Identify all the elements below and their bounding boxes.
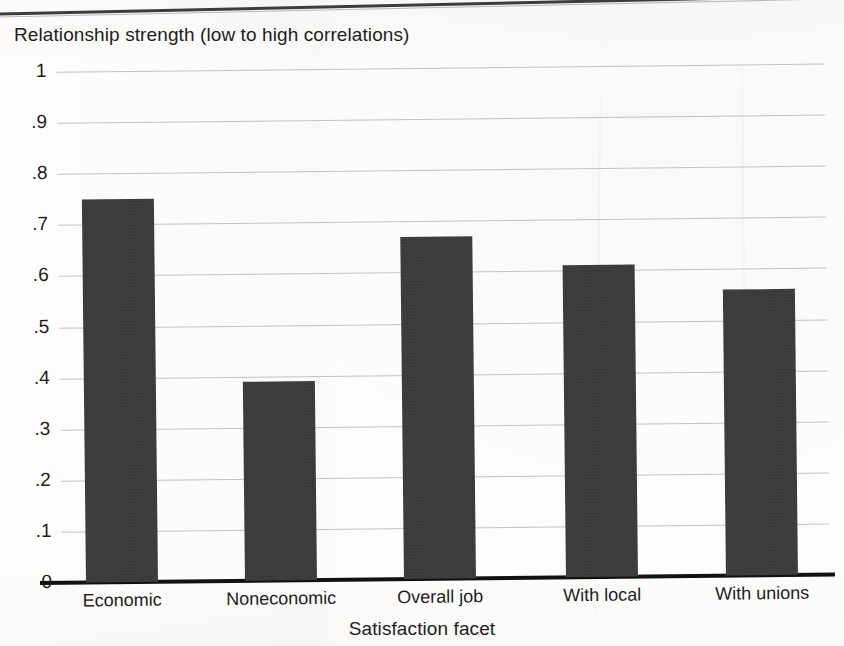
gridline xyxy=(58,217,826,226)
plot-skew-wrapper: 1.9.8.7.6.5.4.3.2.10 EconomicNoneconomic… xyxy=(0,0,844,646)
y-tick-label: .8 xyxy=(13,162,47,184)
bar xyxy=(82,198,158,582)
x-axis-title: Satisfaction facet xyxy=(0,618,844,640)
x-tick-label: With local xyxy=(563,584,641,606)
x-tick-label: Noneconomic xyxy=(226,588,336,610)
y-tick-label: .6 xyxy=(15,264,49,286)
y-tick-label: .3 xyxy=(16,418,50,440)
y-tick-label: .9 xyxy=(13,111,47,133)
y-tick-label: .2 xyxy=(17,469,51,491)
bar xyxy=(243,381,317,581)
gridline xyxy=(58,166,826,175)
bar xyxy=(563,265,638,577)
bar-chart-figure: Relationship strength (low to high corre… xyxy=(0,0,844,646)
y-tick-label: .5 xyxy=(15,315,49,337)
gridline xyxy=(56,63,824,72)
y-tick-label: .4 xyxy=(16,366,50,388)
y-tick-label: .7 xyxy=(14,213,48,235)
bar xyxy=(400,236,476,579)
y-tick-label: 1 xyxy=(12,60,46,82)
x-tick-label: Overall job xyxy=(397,586,483,608)
bar xyxy=(723,289,798,576)
y-axis-tick-labels: 1.9.8.7.6.5.4.3.2.10 xyxy=(6,0,53,646)
y-tick-label: .1 xyxy=(17,520,51,542)
x-tick-label: With unions xyxy=(715,583,809,605)
x-tick-label: Economic xyxy=(83,590,162,612)
gridline xyxy=(57,115,825,124)
